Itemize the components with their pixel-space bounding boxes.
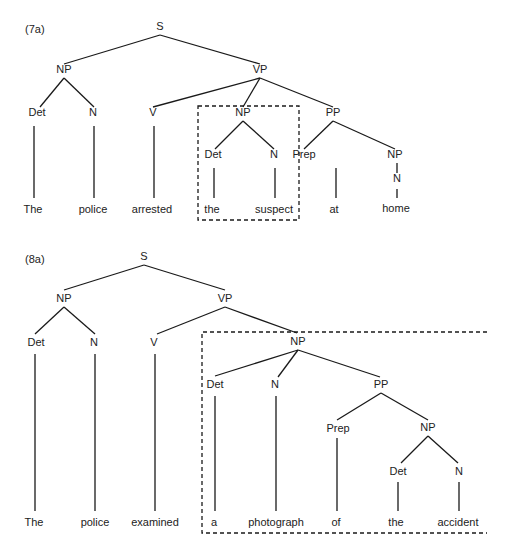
tree-edge	[64, 35, 160, 64]
tree-node-label: Det	[27, 336, 44, 348]
tree-node-label: Det	[204, 148, 221, 160]
diagram-label-8a: (8a)	[25, 253, 45, 265]
tree-node-label: S	[156, 20, 163, 32]
terminal-word: the	[388, 516, 403, 528]
tree-node-label: V	[150, 336, 158, 348]
tree-node-label: PP	[374, 378, 389, 390]
syntax-tree-8a: (8a) SNPVPDetNVNPDetNPPPrepNPDetNThepoli…	[25, 250, 487, 533]
tree-edge	[260, 78, 333, 107]
terminal-word: police	[79, 203, 108, 215]
terminal-word: the	[204, 203, 219, 215]
tree-nodes-8a: SNPVPDetNVNPDetNPPPrepNPDetNThepoliceexa…	[25, 250, 479, 528]
tree-node-label: NP	[290, 335, 305, 347]
tree-node-label: N	[90, 336, 98, 348]
syntax-tree-7a: (7a) SNPVPDetNVNPPPDetNPrepNPNThepolicea…	[24, 20, 410, 220]
tree-node-label: NP	[235, 106, 250, 118]
tree-node-label: Prep	[326, 422, 349, 434]
syntax-tree-canvas: (7a) SNPVPDetNVNPPPDetNPrepNPNThepolicea…	[0, 0, 509, 552]
tree-edge	[157, 307, 225, 334]
terminal-word: examined	[131, 516, 179, 528]
tree-node-label: N	[270, 148, 278, 160]
tree-node-label: PP	[326, 106, 341, 118]
tree-node-label: S	[140, 250, 147, 262]
terminal-word: arrested	[132, 203, 172, 215]
tree-edge	[144, 265, 225, 290]
terminal-word: The	[24, 203, 43, 215]
tree-edge	[278, 350, 298, 377]
tree-node-label: N	[89, 106, 97, 118]
terminal-word: home	[382, 202, 410, 214]
tree-edge	[153, 78, 260, 107]
tree-node-label: NP	[387, 148, 402, 160]
tree-nodes-7a: SNPVPDetNVNPPPDetNPrepNPNThepolicearrest…	[24, 20, 410, 215]
tree-node-label: NP	[420, 421, 435, 433]
tree-edge	[215, 350, 298, 376]
tree-node-label: Det	[389, 465, 406, 477]
terminal-word: suspect	[255, 203, 293, 215]
terminal-word: police	[81, 516, 110, 528]
tree-node-label: N	[455, 465, 463, 477]
tree-edge	[35, 307, 64, 334]
terminal-word: The	[25, 516, 44, 528]
tree-node-label: Det	[28, 106, 45, 118]
terminal-word: at	[329, 203, 338, 215]
tree-node-label: N	[393, 172, 401, 184]
tree-node-label: V	[149, 106, 157, 118]
tree-edge	[160, 35, 260, 64]
tree-edge	[381, 393, 428, 420]
tree-edge	[428, 436, 458, 463]
tree-node-label: NP	[56, 63, 71, 75]
tree-edge	[401, 436, 428, 463]
tree-edge	[64, 265, 144, 290]
tree-edge	[337, 393, 381, 420]
tree-node-label: Prep	[292, 148, 315, 160]
tree-edge	[64, 307, 95, 334]
tree-edge	[304, 121, 333, 149]
tree-edge	[243, 121, 274, 149]
terminal-word: a	[211, 516, 218, 528]
tree-edge	[40, 78, 64, 107]
tree-node-label: VP	[218, 292, 233, 304]
tree-edge	[64, 78, 94, 107]
tree-node-label: Det	[206, 378, 223, 390]
tree-edge	[215, 121, 243, 149]
diagram-label-7a: (7a)	[25, 23, 45, 35]
tree-edge	[333, 121, 395, 149]
tree-edge	[298, 350, 380, 377]
terminal-word: accident	[438, 516, 479, 528]
tree-node-label: N	[271, 378, 279, 390]
terminal-word: of	[331, 516, 341, 528]
tree-node-label: NP	[56, 292, 71, 304]
tree-edge	[225, 307, 297, 333]
tree-node-label: VP	[253, 63, 268, 75]
terminal-word: photograph	[248, 516, 304, 528]
